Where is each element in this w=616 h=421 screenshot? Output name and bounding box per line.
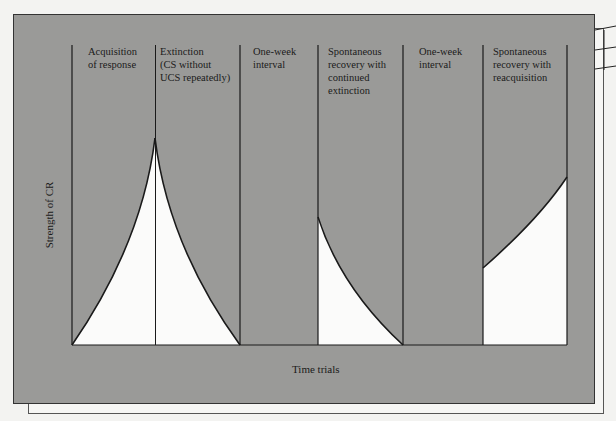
y-axis-label: Strength of CR <box>43 182 55 249</box>
column-label-interval-2: One-week interval <box>419 45 462 71</box>
recovery-extinction-area <box>318 217 403 345</box>
column-label-interval-1: One-week interval <box>253 45 296 71</box>
reacquisition-area <box>483 177 567 345</box>
column-label-extinction: Extinction (CS without UCS repeatedly) <box>160 45 230 84</box>
column-label-recovery-extinction: Spontaneous recovery with continued exti… <box>328 45 386 97</box>
x-axis-label: Time trials <box>292 363 340 375</box>
leader-lines <box>595 26 616 70</box>
column-label-reacquisition: Spontaneous recovery with reacquisition <box>493 45 551 84</box>
column-label-acquisition: Acquisition of response <box>88 45 137 71</box>
